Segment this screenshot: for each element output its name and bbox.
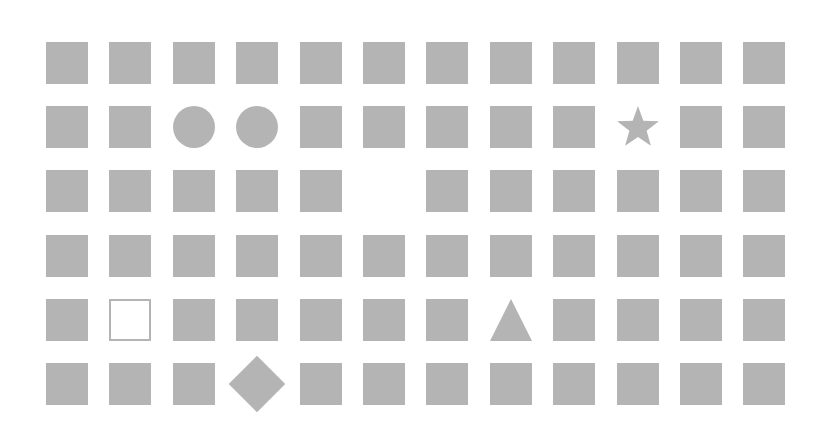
- grid-cell: [109, 170, 151, 212]
- square-icon: [300, 299, 342, 341]
- grid-cell: [300, 170, 342, 212]
- square-icon: [236, 170, 278, 212]
- grid-cell: [617, 299, 659, 341]
- grid-cell: [109, 299, 151, 341]
- grid-cell: [363, 42, 405, 84]
- square-icon: [743, 363, 785, 405]
- grid-cell: [363, 363, 405, 405]
- grid-cell: [743, 106, 785, 148]
- square-icon: [680, 235, 722, 277]
- grid-cell: [46, 363, 88, 405]
- square-icon: [680, 170, 722, 212]
- square-icon: [680, 106, 722, 148]
- grid-cell: [680, 299, 722, 341]
- square-icon: [363, 42, 405, 84]
- grid-cell: [109, 42, 151, 84]
- grid-cell: [553, 170, 595, 212]
- grid-cell: [46, 170, 88, 212]
- square-icon: [363, 299, 405, 341]
- grid-cell: [236, 106, 278, 148]
- square-icon: [490, 170, 532, 212]
- square-icon: [46, 106, 88, 148]
- square-icon: [300, 235, 342, 277]
- square-icon: [46, 42, 88, 84]
- grid-cell: [236, 299, 278, 341]
- grid-cell: [490, 42, 532, 84]
- grid-cell: [109, 235, 151, 277]
- square-icon: [236, 235, 278, 277]
- grid-cell: [173, 235, 215, 277]
- grid-cell: [426, 106, 468, 148]
- empty-icon: [363, 170, 405, 212]
- square-icon: [109, 170, 151, 212]
- square-icon: [426, 42, 468, 84]
- square-icon: [426, 235, 468, 277]
- grid-cell: [743, 299, 785, 341]
- square-icon: [173, 299, 215, 341]
- square-icon: [426, 363, 468, 405]
- grid-cell: [426, 235, 468, 277]
- square-icon: [173, 170, 215, 212]
- square-icon: [363, 363, 405, 405]
- square-icon: [300, 106, 342, 148]
- grid-cell: [617, 106, 659, 148]
- square-icon: [236, 42, 278, 84]
- square-icon: [490, 106, 532, 148]
- square-icon: [300, 363, 342, 405]
- circle-icon: [173, 106, 215, 148]
- triangle-icon: [488, 297, 534, 343]
- square-icon: [46, 235, 88, 277]
- grid-cell: [46, 235, 88, 277]
- grid-cell: [300, 299, 342, 341]
- grid-cell: [236, 170, 278, 212]
- grid-cell: [46, 106, 88, 148]
- square-icon: [553, 170, 595, 212]
- grid-cell: [173, 299, 215, 341]
- square-icon: [109, 235, 151, 277]
- grid-cell: [680, 363, 722, 405]
- shape-grid: [0, 0, 830, 447]
- grid-cell: [680, 42, 722, 84]
- grid-cell: [109, 363, 151, 405]
- grid-cell: [617, 42, 659, 84]
- grid-cell: [363, 235, 405, 277]
- star-icon: [615, 104, 661, 150]
- grid-cell: [236, 235, 278, 277]
- grid-cell: [46, 42, 88, 84]
- square-icon: [490, 363, 532, 405]
- grid-cell: [617, 170, 659, 212]
- grid-cell: [553, 42, 595, 84]
- square-icon: [109, 42, 151, 84]
- square-icon: [363, 235, 405, 277]
- square-icon: [109, 106, 151, 148]
- grid-cell: [680, 170, 722, 212]
- grid-cell: [553, 299, 595, 341]
- grid-cell: [46, 299, 88, 341]
- square-icon: [743, 42, 785, 84]
- grid-cell: [680, 106, 722, 148]
- square-icon: [426, 299, 468, 341]
- grid-cell: [553, 235, 595, 277]
- grid-cell: [743, 170, 785, 212]
- square-icon: [743, 235, 785, 277]
- grid-cell: [173, 170, 215, 212]
- grid-cell: [743, 42, 785, 84]
- square-icon: [490, 42, 532, 84]
- grid-cell: [173, 42, 215, 84]
- square-icon: [426, 170, 468, 212]
- grid-cell: [300, 106, 342, 148]
- square-icon: [743, 106, 785, 148]
- grid-cell: [363, 170, 405, 212]
- square-icon: [46, 299, 88, 341]
- square-icon: [743, 299, 785, 341]
- square-icon: [46, 170, 88, 212]
- square-icon: [680, 42, 722, 84]
- grid-cell: [490, 170, 532, 212]
- square-icon: [680, 363, 722, 405]
- square-icon: [743, 170, 785, 212]
- square-icon: [490, 235, 532, 277]
- grid-cell: [553, 363, 595, 405]
- square-icon: [173, 363, 215, 405]
- square-icon: [426, 106, 468, 148]
- grid-cell: [553, 106, 595, 148]
